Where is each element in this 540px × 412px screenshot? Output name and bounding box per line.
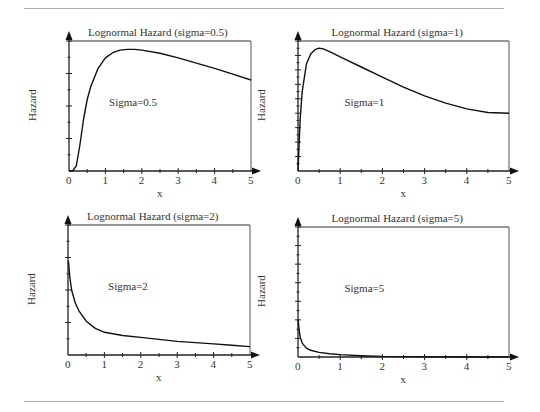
x-tick-label: 1 bbox=[337, 360, 343, 372]
x-tick-label: 4 bbox=[464, 360, 470, 372]
x-tick-label: 3 bbox=[422, 360, 428, 372]
chart-title: Lognormal Hazard (sigma=5) bbox=[332, 212, 463, 224]
plot-area bbox=[0, 0, 540, 412]
curve-annotation: Sigma=5 bbox=[344, 282, 384, 294]
x-tick-label: 2 bbox=[379, 360, 385, 372]
hazard-curve bbox=[298, 320, 509, 357]
x-tick-label: 0 bbox=[295, 360, 301, 372]
y-axis-arrow-icon bbox=[295, 217, 302, 226]
x-tick-label: 5 bbox=[506, 360, 512, 372]
x-axis-label: x bbox=[401, 373, 407, 385]
y-axis-label: Hazard bbox=[255, 266, 267, 316]
